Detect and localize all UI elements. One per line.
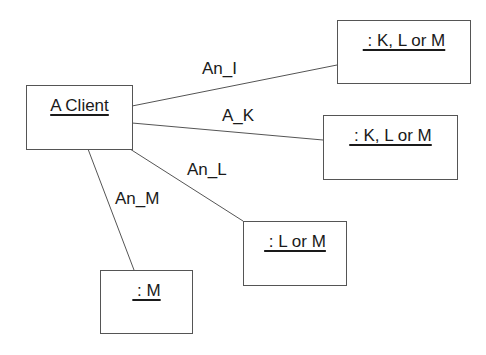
object-a-client[interactable]: A Client <box>26 85 133 150</box>
object-k-l-or-m-1[interactable]: : K, L or M <box>337 20 471 84</box>
object-l-or-m[interactable]: : L or M <box>243 221 347 286</box>
link-label-an-l: An_L <box>187 160 227 180</box>
object-name: : K, L or M <box>324 126 457 146</box>
object-name: : L or M <box>244 232 346 252</box>
link-an-m <box>88 149 134 270</box>
object-k-l-or-m-2[interactable]: : K, L or M <box>323 115 458 180</box>
link-label-an-m: An_M <box>115 189 159 209</box>
object-name: : M <box>101 281 192 301</box>
object-m[interactable]: : M <box>100 270 193 334</box>
object-name: : K, L or M <box>338 31 470 51</box>
link-label-a-k: A_K <box>222 106 254 126</box>
link-label-an-i: An_I <box>202 59 237 79</box>
object-name: A Client <box>27 96 132 116</box>
